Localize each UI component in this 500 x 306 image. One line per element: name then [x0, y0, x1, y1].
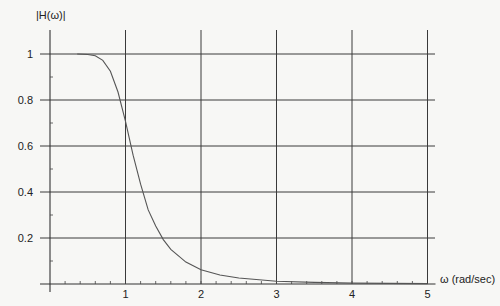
axes [40, 30, 436, 292]
x-axis-label: ω (rad/sec) [440, 273, 495, 285]
y-tick-label: 0.8 [18, 94, 33, 106]
y-tick-label: 0.2 [18, 232, 33, 244]
x-minor-ticks [50, 77, 412, 284]
x-tick-label: 2 [198, 288, 204, 300]
horizontal-gridlines [40, 54, 435, 238]
x-tick-label: 1 [122, 288, 128, 300]
vertical-gridlines [126, 30, 428, 284]
x-tick-labels: 12345 [122, 288, 430, 300]
x-tick-label: 4 [349, 288, 355, 300]
x-tick-label: 5 [424, 288, 430, 300]
y-tick-label: 0.6 [18, 140, 33, 152]
frequency-response-chart: 12345 0.20.40.60.81 |H(ω)| ω (rad/sec) [0, 0, 500, 306]
x-tick-label: 3 [273, 288, 279, 300]
y-tick-labels: 0.20.40.60.81 [18, 48, 33, 244]
y-tick-label: 0.4 [18, 186, 33, 198]
magnitude-curve [77, 54, 427, 284]
y-tick-label: 1 [27, 48, 33, 60]
y-axis-label: |H(ω)| [36, 9, 66, 21]
